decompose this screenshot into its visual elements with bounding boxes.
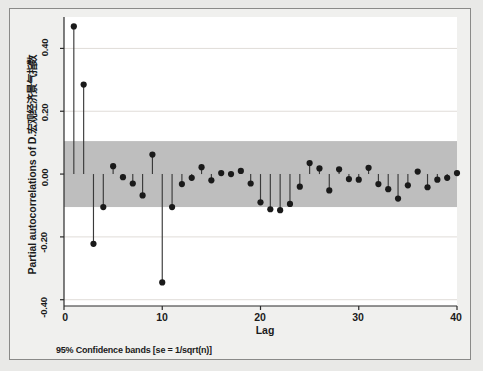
point-lag-24 bbox=[297, 184, 303, 190]
point-lag-32 bbox=[375, 181, 381, 187]
point-lag-13 bbox=[189, 175, 195, 181]
point-lag-3 bbox=[90, 241, 96, 247]
x-tick-label-3: 30 bbox=[343, 311, 373, 323]
x-tick-label-2: 20 bbox=[245, 311, 275, 323]
point-lag-12 bbox=[179, 181, 185, 187]
pacf-chart bbox=[10, 9, 472, 361]
point-lag-30 bbox=[356, 177, 362, 183]
point-lag-22 bbox=[277, 207, 283, 213]
y-axis-title: Partial autocorrelations of D.宏观经济景气指数 bbox=[24, 40, 39, 290]
y-tick-label-1: 0.20 bbox=[39, 96, 50, 130]
point-lag-39 bbox=[444, 175, 450, 181]
figure-frame: Partial autocorrelations of D.宏观经济景气指数 0… bbox=[9, 8, 471, 360]
point-lag-14 bbox=[198, 164, 204, 170]
point-lag-17 bbox=[228, 171, 234, 177]
point-lag-23 bbox=[287, 201, 293, 207]
point-lag-29 bbox=[346, 176, 352, 182]
confidence-band-note: 95% Confidence bands [se = 1/sqrt(n)] bbox=[56, 345, 212, 355]
point-lag-5 bbox=[110, 163, 116, 169]
plot-container: Partial autocorrelations of D.宏观经济景气指数 0… bbox=[10, 9, 472, 361]
point-lag-37 bbox=[424, 184, 430, 190]
point-lag-33 bbox=[385, 186, 391, 192]
point-lag-26 bbox=[316, 165, 322, 171]
y-tick-label-2: 0.00 bbox=[39, 161, 50, 195]
point-lag-19 bbox=[248, 180, 254, 186]
point-lag-21 bbox=[267, 206, 273, 212]
x-tick-label-0: 0 bbox=[50, 311, 80, 323]
point-lag-8 bbox=[140, 192, 146, 198]
point-lag-34 bbox=[395, 195, 401, 201]
point-lag-28 bbox=[336, 166, 342, 172]
point-lag-40 bbox=[454, 170, 460, 176]
point-lag-15 bbox=[208, 177, 214, 183]
y-tick-label-0: 0.40 bbox=[39, 31, 50, 65]
point-lag-35 bbox=[405, 182, 411, 188]
point-lag-36 bbox=[415, 168, 421, 174]
y-tick-label-4: -0.40 bbox=[38, 291, 49, 325]
point-lag-7 bbox=[130, 180, 136, 186]
point-lag-20 bbox=[257, 199, 263, 205]
point-lag-9 bbox=[149, 151, 155, 157]
point-lag-18 bbox=[238, 168, 244, 174]
point-lag-25 bbox=[307, 160, 313, 166]
point-lag-10 bbox=[159, 279, 165, 285]
point-lag-27 bbox=[326, 187, 332, 193]
point-lag-4 bbox=[100, 204, 106, 210]
point-lag-1 bbox=[71, 23, 77, 29]
point-lag-11 bbox=[169, 204, 175, 210]
x-axis-title: Lag bbox=[235, 324, 295, 336]
point-lag-16 bbox=[218, 170, 224, 176]
point-lag-38 bbox=[434, 177, 440, 183]
x-tick-label-4: 40 bbox=[441, 311, 471, 323]
x-tick-label-1: 10 bbox=[147, 311, 177, 323]
y-tick-label-3: -0.20 bbox=[38, 226, 49, 260]
point-lag-31 bbox=[365, 165, 371, 171]
point-lag-6 bbox=[120, 174, 126, 180]
point-lag-2 bbox=[81, 81, 87, 87]
